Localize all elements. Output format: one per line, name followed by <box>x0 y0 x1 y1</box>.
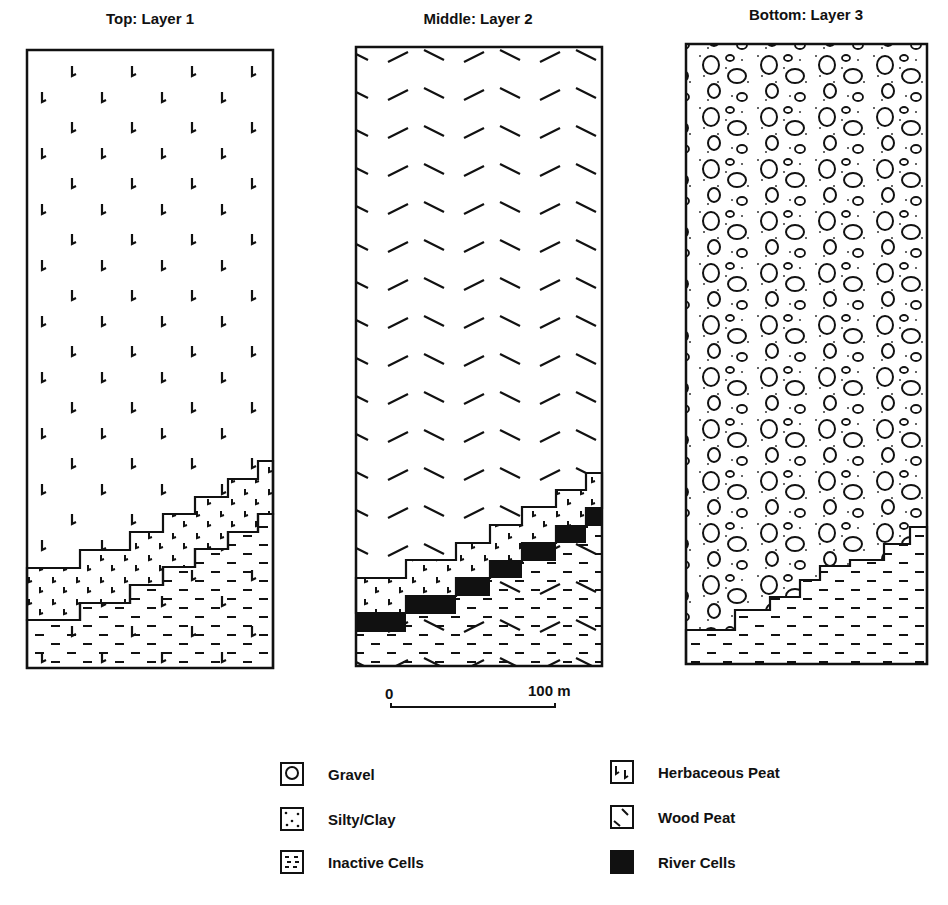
gravel-icon <box>280 762 304 786</box>
legend-label-wood-peat: Wood Peat <box>658 809 735 826</box>
wood-peat-icon <box>610 805 634 829</box>
legend-item-silty-clay: Silty/Clay <box>280 806 396 832</box>
legend-label-gravel: Gravel <box>328 766 375 783</box>
legend-label-silty-clay: Silty/Clay <box>328 811 396 828</box>
scale-start-label: 0 <box>385 685 393 702</box>
river-cells-icon <box>610 850 634 874</box>
legend-item-inactive-cells: Inactive Cells <box>280 849 424 875</box>
silty-clay-icon <box>280 807 304 831</box>
panel-layer-2 <box>356 47 602 666</box>
scale-end-label: 100 m <box>528 682 571 699</box>
inactive-cells-icon <box>280 850 304 874</box>
panel-layer-3 <box>686 44 927 664</box>
scale-bar <box>391 703 555 707</box>
legend-label-herbaceous-peat: Herbaceous Peat <box>658 764 780 781</box>
legend-item-wood-peat: Wood Peat <box>610 804 735 830</box>
herbaceous-peat-icon <box>610 760 634 784</box>
legend-label-inactive-cells: Inactive Cells <box>328 854 424 871</box>
legend-item-river-cells: River Cells <box>610 849 736 875</box>
legend-label-river-cells: River Cells <box>658 854 736 871</box>
panel-layer-1 <box>27 50 273 668</box>
legend-item-herbaceous-peat: Herbaceous Peat <box>610 759 780 785</box>
legend-item-gravel: Gravel <box>280 761 375 787</box>
